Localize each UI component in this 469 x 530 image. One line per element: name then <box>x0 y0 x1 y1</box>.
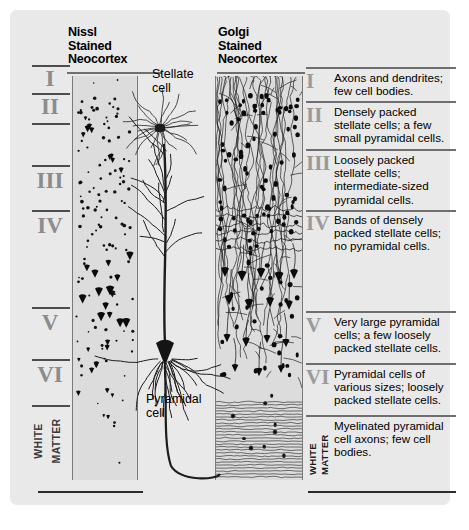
left-numeral-i: I <box>28 67 72 90</box>
desc-text-vi: Pyramidal cells of various sizes; loosel… <box>334 367 458 407</box>
golgi-heading-rule <box>217 72 305 74</box>
figure-panel: Nissl Stained Neocortex Golgi Stained Ne… <box>10 10 450 505</box>
nissl-column-heading: Nissl Stained Neocortex <box>68 26 127 67</box>
left-numeral-ii: II <box>28 95 72 118</box>
desc-numeral-iii: III <box>306 153 332 174</box>
center-neuron-drawing <box>110 70 220 490</box>
desc-text-white-matter: Myelinated pyramidal cell axons; few cel… <box>334 419 458 459</box>
golgi-stain-column <box>215 76 303 480</box>
bottom-rule-right <box>308 491 456 493</box>
description-divider <box>306 67 456 69</box>
left-numeral-iii: III <box>28 169 72 192</box>
desc-numeral-vi: VI <box>306 367 332 388</box>
layer-divider <box>32 405 70 407</box>
wm-line-1: WHITE <box>32 423 44 458</box>
layer-divider <box>32 123 70 125</box>
wm-line-2: MATTER <box>50 419 62 464</box>
desc-text-iv: Bands of densely packed stellate cells; … <box>334 213 458 253</box>
layer-divider <box>32 210 70 212</box>
layer-divider <box>32 165 70 167</box>
layer-divider <box>32 359 70 361</box>
left-numeral-v: V <box>28 311 72 334</box>
stellate-cell-label: Stellate cell <box>152 67 194 95</box>
desc-text-iii: Loosely packed stellate cells; intermedi… <box>334 153 458 206</box>
desc-text-v: Very large pyramidal cells; a few loosel… <box>334 315 458 355</box>
pyramidal-cell-label: Pyramidal cell <box>146 392 202 420</box>
column-edge <box>72 76 73 480</box>
desc-text-ii: Densely packed stellate cells; a few sma… <box>334 105 458 145</box>
desc-numeral-i: I <box>306 71 332 92</box>
description-divider <box>306 311 456 313</box>
left-white-matter-label: WHITE MATTER <box>30 415 72 473</box>
desc-numeral-ii: II <box>306 105 332 126</box>
desc-text-i: Axons and dendrites; few cell bodies. <box>334 71 458 97</box>
left-numeral-vi: VI <box>28 363 72 386</box>
desc-numeral-v: V <box>306 315 332 336</box>
desc-numeral-iv: IV <box>306 213 332 234</box>
description-divider <box>306 415 456 417</box>
description-divider <box>306 101 456 103</box>
desc-white-matter-label: WHITE MATTER <box>306 419 334 475</box>
golgi-column-heading: Golgi Stained Neocortex <box>218 26 277 67</box>
left-numeral-iv: IV <box>28 214 72 237</box>
bottom-rule-left <box>38 491 143 493</box>
column-edge <box>302 76 303 480</box>
left-layer-numerals: I II III IV V VI WHITE MATTER <box>28 65 74 485</box>
layer-divider <box>32 307 70 309</box>
